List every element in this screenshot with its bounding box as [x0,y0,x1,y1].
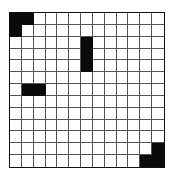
grid-cell [81,143,93,155]
grid-cell-filled [152,143,164,155]
grid-cell [140,49,152,61]
grid-cell [34,120,46,132]
grid-cell [140,108,152,120]
grid-cell [22,96,34,108]
grid-cell [152,60,164,72]
grid-cell [93,60,105,72]
grid-cell [69,60,81,72]
grid-cell [57,84,69,96]
grid-cell-filled [152,155,164,167]
grid-cell [46,72,58,84]
grid-cell [128,13,140,25]
grid-cell [140,131,152,143]
grid-cell [57,60,69,72]
grid-cell [140,25,152,37]
grid-cell [117,25,129,37]
grid-cell [152,131,164,143]
grid-cell [117,120,129,132]
grid-cell-filled [22,84,34,96]
grid-cell [93,143,105,155]
grid-cell [57,108,69,120]
grid-cell-filled [10,25,22,37]
grid-cell [93,155,105,167]
grid-cell [34,131,46,143]
grid-cell [140,120,152,132]
grid-cell [152,13,164,25]
grid-cell [57,131,69,143]
grid-cell [128,108,140,120]
grid-cell [105,108,117,120]
grid-cell [93,49,105,61]
grid-cell [81,96,93,108]
grid-cell [10,37,22,49]
grid-cell [128,155,140,167]
grid-cell [117,108,129,120]
grid-cell [34,13,46,25]
grid-cell [22,49,34,61]
grid-cell-filled [81,37,93,49]
grid-cell [105,72,117,84]
grid-cell [152,84,164,96]
grid-cell [22,155,34,167]
grid-cell [93,131,105,143]
grid-cell [69,108,81,120]
grid-cell [22,131,34,143]
grid-cell [152,120,164,132]
grid-cell [152,96,164,108]
grid-cell [140,60,152,72]
grid-cell [93,120,105,132]
grid-cell [22,108,34,120]
grid-cell [46,143,58,155]
grid-cell [128,84,140,96]
grid-cell [81,108,93,120]
grid-cell [105,13,117,25]
grid-cell [22,60,34,72]
grid-cell [57,155,69,167]
grid-cell [34,72,46,84]
grid-cell [152,108,164,120]
grid-cell [93,84,105,96]
grid-cell [93,13,105,25]
grid-cell [81,155,93,167]
grid-cell [10,108,22,120]
grid-cell [117,37,129,49]
grid-cell [46,60,58,72]
grid-cell [93,108,105,120]
grid-cell [22,120,34,132]
grid-cell [105,155,117,167]
grid-cell [128,96,140,108]
grid-cell [117,96,129,108]
grid-cell [117,13,129,25]
grid-cell [10,60,22,72]
grid-cell [34,155,46,167]
grid-cell [69,72,81,84]
grid-cell [57,143,69,155]
grid-cell [128,131,140,143]
grid-cell [69,49,81,61]
grid-cell [117,131,129,143]
grid-cell [117,49,129,61]
grid-cell [140,143,152,155]
grid-cell [34,37,46,49]
grid-cell [105,49,117,61]
grid-cell [93,96,105,108]
grid-cell [105,143,117,155]
grid-cell [46,37,58,49]
grid-cell [117,155,129,167]
grid-cell-filled [10,13,22,25]
grid-cell [140,72,152,84]
grid-cell [81,131,93,143]
grid-cell [69,13,81,25]
grid-cell [10,131,22,143]
grid-cell [105,37,117,49]
grid-cell [152,37,164,49]
grid-cell [105,131,117,143]
grid-cell [81,25,93,37]
grid-cell [69,131,81,143]
grid-cell [81,13,93,25]
grid-cell [69,143,81,155]
grid-cell [105,60,117,72]
grid-cell-filled [81,60,93,72]
grid-cell-filled [22,13,34,25]
grid-cell [57,25,69,37]
